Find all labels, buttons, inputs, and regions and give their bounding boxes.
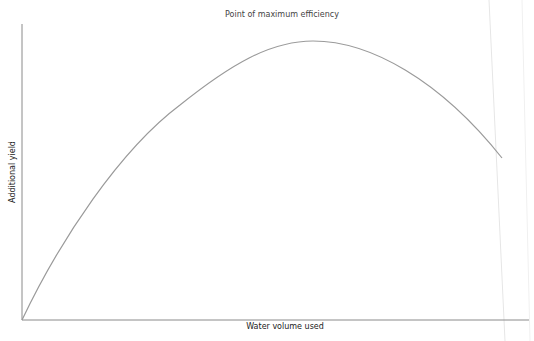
yield-curve: [22, 41, 502, 320]
x-axis-label: Water volume used: [0, 322, 534, 331]
chart-canvas: [0, 0, 534, 341]
faint-guide-line-2: [522, 0, 530, 341]
chart-title: Point of maximum efficiency: [0, 10, 534, 19]
faint-guide-line: [489, 0, 505, 341]
y-axis-label: Additional yield: [8, 141, 17, 203]
